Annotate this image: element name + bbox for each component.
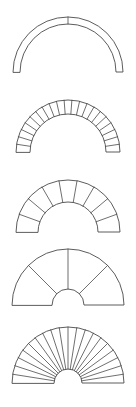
many-voussoir-arch-outline xyxy=(16,100,120,152)
many-voussoir-arch-svg xyxy=(0,96,136,158)
arch-diagram-sheet xyxy=(0,0,136,407)
arch-figure-4 xyxy=(0,245,136,311)
thin-semicircular-arch-svg xyxy=(0,13,136,78)
nine-voussoir-arch-svg xyxy=(0,176,136,238)
nine-voussoir-arch-outline xyxy=(16,180,120,232)
arch-figure-5 xyxy=(0,323,136,389)
arch-figure-2 xyxy=(0,96,136,158)
arch-figure-1 xyxy=(0,13,136,78)
thin-semicircular-arch-outline xyxy=(13,17,123,72)
arch-figure-3 xyxy=(0,176,136,238)
four-sector-fan-arch-svg xyxy=(0,245,136,311)
twenty-sector-fan-arch-svg xyxy=(0,323,136,389)
